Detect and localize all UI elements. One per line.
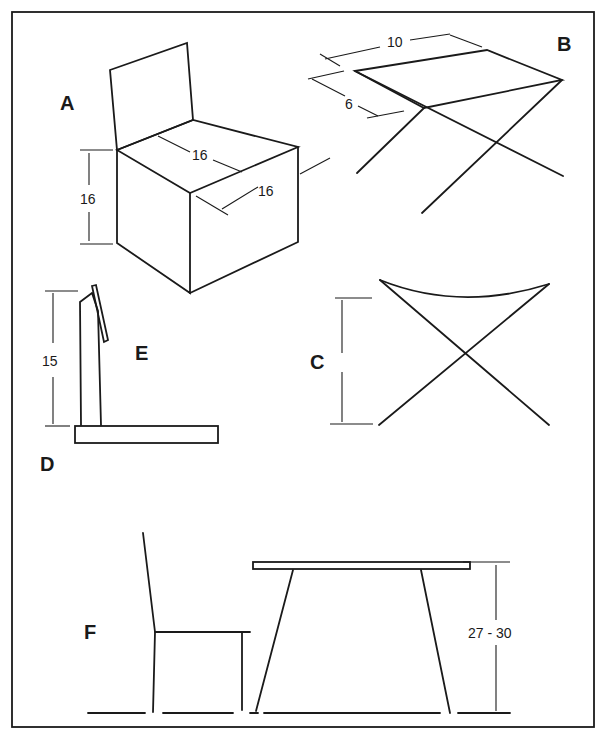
panel-label-c: C xyxy=(310,351,324,373)
dim-f-table-height: 27 - 30 xyxy=(468,625,512,641)
panel-label-b: B xyxy=(557,33,571,55)
panel-label-a: A xyxy=(60,92,74,114)
panel-a-box-chair xyxy=(80,43,330,293)
dim-a-seat-depth: 16 xyxy=(192,147,208,163)
dim-a-seat-width: 16 xyxy=(258,183,274,199)
panel-label-e: E xyxy=(135,342,148,364)
dim-b-top-width: 6 xyxy=(345,96,353,112)
dim-e-height: 15 xyxy=(42,353,58,369)
panel-c-sling-stool xyxy=(330,280,549,425)
dim-b-top-length: 10 xyxy=(387,34,403,50)
panel-label-d: D xyxy=(40,453,54,475)
dim-a-seat-height: 16 xyxy=(80,191,96,207)
furniture-diagram: A 16 16 16 B 10 6 E 15 D xyxy=(0,0,600,740)
panel-label-f: F xyxy=(84,621,96,643)
panel-e-side-view xyxy=(45,285,218,443)
panel-b-folding-table xyxy=(308,34,563,213)
panel-f-chair-table xyxy=(88,533,510,713)
